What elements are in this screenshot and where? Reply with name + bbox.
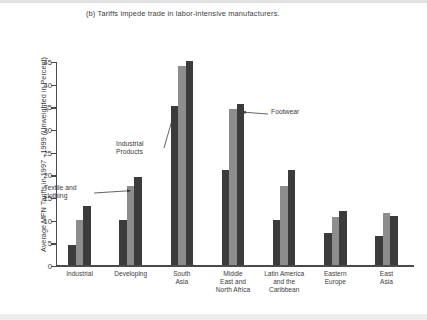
bar-group: [375, 213, 398, 265]
annotation-footwear: Footwear: [271, 108, 299, 116]
annotation-textile-and-clothing: Textile and clothing: [44, 184, 77, 201]
y-tick-label: 10: [44, 216, 52, 225]
chart-title: (b) Tariffs impede trade in labor-intens…: [86, 9, 366, 18]
x-axis-line: [56, 265, 414, 267]
bar: [288, 170, 296, 265]
bar-group: [119, 177, 142, 265]
bar: [237, 104, 245, 265]
bar: [390, 216, 398, 265]
y-tick-label: 30: [44, 126, 52, 135]
bar: [186, 61, 194, 265]
chart-figure: (b) Tariffs impede trade in labor-intens…: [0, 0, 427, 320]
y-tick-label: 40: [44, 80, 52, 89]
bar: [375, 236, 383, 265]
y-tick-label: 35: [44, 103, 52, 112]
bar: [68, 245, 76, 265]
bar: [324, 233, 332, 265]
bar: [383, 213, 391, 265]
annotation-industrial-products: Industrial Products: [116, 140, 144, 157]
bar-group: [68, 206, 91, 265]
bar: [273, 220, 281, 265]
bar: [76, 220, 84, 265]
y-tick-label: 20: [44, 171, 52, 180]
y-tick-label: 5: [48, 239, 52, 248]
bar: [280, 186, 288, 265]
y-axis-line: [56, 62, 57, 266]
bar: [171, 106, 179, 265]
bar-group: [273, 170, 296, 265]
page-top-edge: [0, 0, 427, 3]
page-bottom-edge: [0, 314, 427, 320]
bar: [134, 177, 142, 265]
bar-group: [222, 104, 245, 265]
bar: [83, 206, 91, 265]
bar: [332, 217, 340, 265]
plot-area: 051015202530354045 IndustrialDevelopingS…: [56, 62, 414, 266]
bar: [119, 220, 127, 265]
bar: [178, 66, 186, 265]
y-tick-label: 25: [44, 148, 52, 157]
bar: [339, 211, 347, 265]
bar: [229, 109, 237, 265]
bar-group: [324, 211, 347, 265]
y-tick-label: 45: [44, 58, 52, 67]
bar: [222, 170, 230, 265]
bar-group: [171, 61, 194, 265]
bar: [127, 186, 135, 265]
x-category-label: East Asia: [356, 270, 416, 286]
